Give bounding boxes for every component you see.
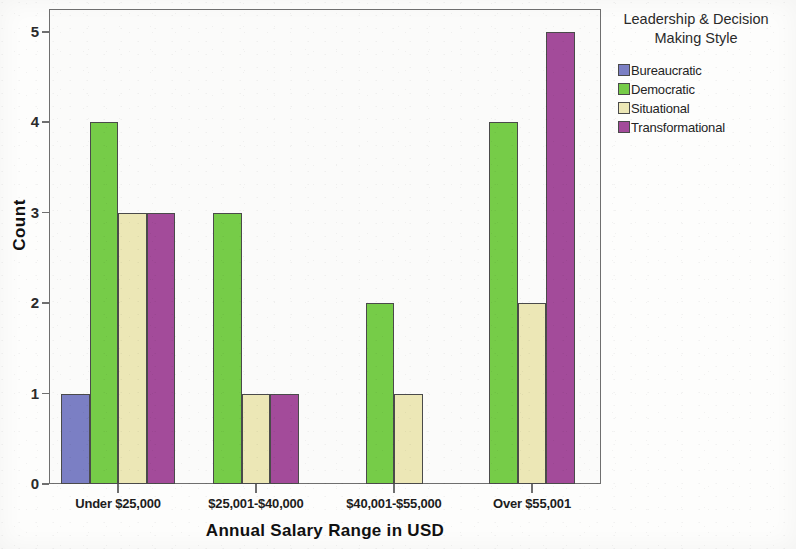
x-tick-mark xyxy=(393,484,395,493)
legend-item-label: Democratic xyxy=(631,82,695,97)
legend-item-label: Bureaucratic xyxy=(631,63,702,78)
legend-item-label: Situational xyxy=(631,101,690,116)
legend-swatch-icon xyxy=(618,121,630,133)
y-tick-label: 0 xyxy=(31,474,39,494)
legend-item: Bureaucratic xyxy=(618,61,793,79)
bar xyxy=(546,32,575,484)
bar xyxy=(366,303,395,484)
x-axis-tick-label: $25,001-$40,000 xyxy=(187,496,325,511)
y-tick-label: 4 xyxy=(31,112,39,132)
bar xyxy=(147,213,176,484)
y-tick-mark xyxy=(42,393,49,395)
y-axis-title: Count xyxy=(10,125,30,325)
bar xyxy=(118,213,147,484)
bar xyxy=(394,394,423,484)
legend: Leadership & Decision Making Style Burea… xyxy=(607,10,793,137)
y-tick-label: 1 xyxy=(31,384,39,404)
y-tick-label: 3 xyxy=(31,203,39,223)
y-tick-mark xyxy=(42,302,49,304)
legend-item-list: BureaucraticDemocraticSituationalTransfo… xyxy=(618,61,793,136)
bar xyxy=(61,394,90,484)
x-tick-mark xyxy=(531,484,533,493)
y-tick-mark xyxy=(42,212,49,214)
bar-chart-figure: 012345 Count Under $25,000$25,001-$40,00… xyxy=(0,0,796,549)
x-tick-mark xyxy=(117,484,119,493)
bar xyxy=(489,122,518,484)
y-tick-mark xyxy=(42,483,49,485)
bar xyxy=(242,394,271,484)
bar xyxy=(213,213,242,484)
x-axis-tick-label: Under $25,000 xyxy=(49,496,187,511)
y-tick-label: 5 xyxy=(31,22,39,42)
bar xyxy=(90,122,119,484)
legend-title-line-1: Leadership & Decision xyxy=(607,10,785,29)
y-tick-mark xyxy=(42,121,49,123)
legend-title: Leadership & Decision Making Style xyxy=(607,10,785,48)
x-tick-mark xyxy=(255,484,257,493)
legend-item: Transformational xyxy=(618,118,793,136)
legend-title-line-2: Making Style xyxy=(607,29,785,48)
legend-swatch-icon xyxy=(618,83,630,95)
legend-item: Democratic xyxy=(618,80,793,98)
bar xyxy=(518,303,547,484)
x-axis-tick-label: $40,001-$55,000 xyxy=(325,496,463,511)
legend-swatch-icon xyxy=(618,102,630,114)
bar xyxy=(270,394,299,484)
legend-item-label: Transformational xyxy=(631,120,725,135)
y-tick-mark xyxy=(42,31,49,33)
legend-swatch-icon xyxy=(618,64,630,76)
y-tick-label: 2 xyxy=(31,293,39,313)
x-axis-tick-label: Over $55,001 xyxy=(463,496,601,511)
x-axis-title: Annual Salary Range in USD xyxy=(49,521,601,541)
legend-item: Situational xyxy=(618,99,793,117)
